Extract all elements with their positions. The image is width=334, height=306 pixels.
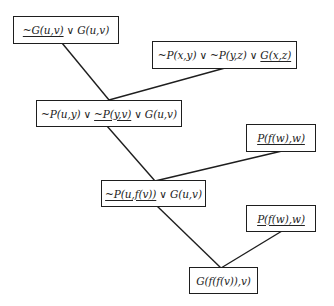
literal: ~P(y,z) — [210, 49, 247, 61]
clause-c6: P(f(w),w) — [246, 205, 316, 232]
resolution-diagram: ~G(u,v) ∨ G(u,v) ~P(x,y) ∨ ~P(y,z) ∨ G(x… — [0, 0, 334, 306]
literal: G(u,v) — [77, 24, 109, 36]
literal: G(u,v) — [145, 108, 177, 120]
edge-c3-c5 — [107, 126, 155, 181]
literal: P(f(w),w) — [257, 213, 305, 225]
literal: ~P(u,y) — [41, 108, 80, 120]
literal: G(f(f(v)),v) — [196, 275, 251, 287]
clause-c2: ~P(x,y) ∨ ~P(y,z) ∨ G(x,z) — [152, 41, 297, 69]
literal: G(x,z) — [260, 49, 291, 61]
literal: G(u,v) — [170, 188, 202, 200]
clause-c4: P(f(w),w) — [246, 124, 316, 152]
literal: ~G(u,v) — [23, 24, 64, 36]
or-operator: ∨ — [250, 49, 258, 61]
edge-c5-c7 — [157, 206, 221, 268]
or-operator: ∨ — [84, 108, 92, 120]
clause-c7-conclusion: G(f(f(v)),v) — [189, 267, 258, 294]
or-operator: ∨ — [67, 24, 75, 36]
edge-c4-c5 — [155, 151, 282, 181]
or-operator: ∨ — [159, 188, 167, 200]
edge-c2-c3 — [109, 68, 225, 100]
literal: ~P(u,f(v)) — [105, 188, 156, 200]
edge-c1-c3 — [62, 43, 109, 100]
clause-c1: ~G(u,v) ∨ G(u,v) — [13, 16, 119, 44]
edge-c6-c7 — [221, 231, 282, 268]
or-operator: ∨ — [134, 108, 142, 120]
literal: P(f(w),w) — [257, 132, 305, 144]
literal: ~P(x,y) — [158, 49, 197, 61]
clause-c5: ~P(u,f(v)) ∨ G(u,v) — [101, 180, 206, 207]
literal: ~P(y,v) — [94, 108, 131, 120]
or-operator: ∨ — [199, 49, 207, 61]
clause-c3: ~P(u,y) ∨ ~P(y,v) ∨ G(u,v) — [36, 100, 182, 127]
